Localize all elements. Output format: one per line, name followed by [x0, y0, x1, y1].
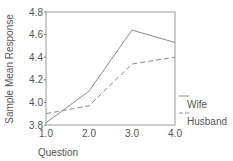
x-tick-label: 3.0	[125, 128, 139, 139]
y-tick-label: 4.8	[29, 7, 43, 18]
x-tick-label: 1.0	[39, 128, 53, 139]
x-axis-ticks: 1.02.03.04.0	[39, 128, 182, 139]
y-tick-label: 4.6	[29, 29, 43, 40]
legend: WifeHusband	[179, 96, 227, 127]
y-axis-ticks: 3.84.04.24.44.64.8	[29, 7, 46, 131]
y-axis-label: Sample Mean Response	[4, 14, 15, 124]
line-chart: 3.84.04.24.44.64.8 1.02.03.04.0 Sample M…	[0, 0, 233, 161]
y-tick-label: 4.4	[29, 52, 43, 63]
series-wife-line	[46, 30, 175, 123]
x-axis-label: Question	[38, 147, 78, 158]
x-tick-label: 2.0	[82, 128, 96, 139]
y-tick-label: 4.0	[29, 97, 43, 108]
x-tick-label: 4.0	[168, 128, 182, 139]
series-lines	[46, 30, 175, 123]
y-tick-label: 4.2	[29, 74, 43, 85]
legend-label-husband: Husband	[187, 116, 227, 127]
series-husband-line	[46, 57, 175, 113]
legend-label-wife: Wife	[187, 99, 207, 110]
